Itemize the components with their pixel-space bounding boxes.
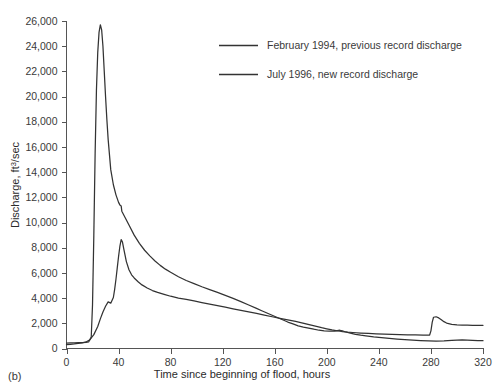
x-tick-label: 0 <box>64 356 70 368</box>
x-tick-label: 200 <box>318 356 336 368</box>
y-tick-label: 26,000 <box>25 15 57 27</box>
y-tick-label: 14,000 <box>25 166 57 178</box>
y-tick-label: 10,000 <box>25 216 57 228</box>
y-tick-label: 8,000 <box>31 241 57 253</box>
y-tick-label: 4,000 <box>31 292 57 304</box>
y-tick-label: 22,000 <box>25 65 57 77</box>
y-tick-label: 0 <box>52 342 58 354</box>
x-tick-label: 320 <box>474 356 492 368</box>
legend-label-july-1996: July 1996, new record discharge <box>267 68 418 80</box>
legend-label-february-1994: February 1994, previous record discharge <box>267 39 462 51</box>
y-axis-title-base: Discharge, ft <box>9 166 21 228</box>
y-tick-label: 24,000 <box>25 40 57 52</box>
y-axis-title-tail: /sec <box>9 141 21 162</box>
x-tick-label: 240 <box>370 356 388 368</box>
figure-panel-b: 02,0004,0006,0008,00010,00012,00014,0001… <box>0 0 494 389</box>
y-tick-label: 20,000 <box>25 90 57 102</box>
x-tick-label: 80 <box>165 356 177 368</box>
discharge-hydrograph-chart: 02,0004,0006,0008,00010,00012,00014,0001… <box>0 0 494 389</box>
y-tick-label: 16,000 <box>25 141 57 153</box>
panel-label: (b) <box>8 370 21 382</box>
y-tick-label: 6,000 <box>31 267 57 279</box>
y-tick-label: 18,000 <box>25 115 57 127</box>
x-tick-label: 280 <box>422 356 440 368</box>
y-tick-label: 2,000 <box>31 317 57 329</box>
y-axis-title-group: Discharge, ft3/sec <box>9 141 22 228</box>
x-tick-label: 40 <box>113 356 125 368</box>
chart-background <box>0 0 494 389</box>
x-tick-label: 120 <box>214 356 232 368</box>
y-tick-label: 12,000 <box>25 191 57 203</box>
x-tick-label: 160 <box>266 356 284 368</box>
x-axis-title: Time since beginning of flood, hours <box>154 368 331 380</box>
y-axis-title: Discharge, ft3/sec <box>9 141 22 228</box>
